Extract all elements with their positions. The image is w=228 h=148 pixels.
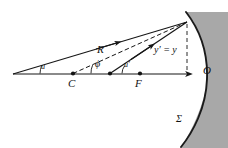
point-c: [71, 71, 75, 75]
label-angle-u: u: [41, 63, 45, 71]
reflected-ray-arrow: [131, 46, 152, 60]
label-image-height: y′ = y: [154, 45, 177, 55]
label-angle-u-prime: u′: [124, 61, 130, 69]
label-angle-phi: ϕ: [95, 59, 100, 69]
angle-phi-arc: [91, 65, 93, 73]
label-center-c: C: [68, 78, 75, 89]
point-f: [138, 71, 142, 75]
optics-ray-diagram: [0, 0, 228, 148]
label-radius-r: R: [97, 44, 104, 55]
label-surface-sigma: Σ: [176, 114, 182, 124]
point-mid: [108, 71, 112, 75]
label-focus-f: F: [135, 78, 142, 89]
figure-canvas: u ϕ u′ R C F y′ = y O Σ: [0, 0, 228, 148]
mirror-body: [181, 12, 228, 148]
label-vertex-o: O: [203, 65, 211, 76]
